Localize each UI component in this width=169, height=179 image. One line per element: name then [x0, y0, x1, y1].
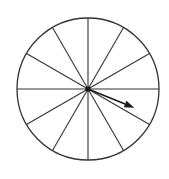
divider-line: [88, 89, 149, 125]
spinner-diagram: [0, 0, 169, 179]
divider-line: [88, 28, 124, 89]
divider-line: [88, 89, 124, 150]
divider-line: [53, 28, 89, 89]
divider-line: [88, 54, 149, 90]
arrowhead-icon: [124, 101, 135, 108]
divider-line: [27, 54, 88, 90]
divider-line: [53, 89, 89, 150]
spinner-graphic: [0, 0, 169, 179]
spinner-arrow[interactable]: [88, 89, 134, 108]
center-hub: [85, 86, 90, 91]
arrow-shaft: [88, 89, 125, 104]
divider-line: [27, 89, 88, 125]
